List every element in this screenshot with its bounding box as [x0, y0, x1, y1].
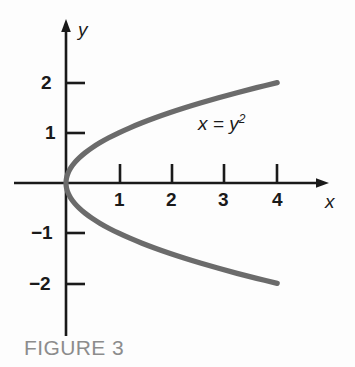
curve-equation-exponent: 2	[239, 112, 246, 126]
x-axis-label: x	[325, 192, 335, 211]
y-axis-arrowhead	[61, 19, 71, 32]
x-axis-arrowhead	[316, 178, 329, 188]
curve-equation-label: x = y2	[198, 114, 245, 133]
x-tick-label-1: 1	[114, 190, 125, 209]
x-tick-label-4: 4	[272, 190, 283, 209]
y-tick-label-neg2: −2	[29, 274, 51, 293]
figure-container: 2 1 −1 −2 1 2 3 4 y x x = y2 FIGURE 3	[0, 0, 355, 367]
figure-caption: FIGURE 3	[24, 337, 124, 358]
y-tick-label-1: 1	[45, 123, 56, 142]
curve-equation-base: x = y	[198, 113, 239, 134]
x-tick-label-2: 2	[166, 190, 177, 209]
x-tick-label-3: 3	[218, 190, 229, 209]
y-axis-label: y	[78, 20, 88, 39]
plot-canvas	[0, 0, 355, 367]
y-tick-label-neg1: −1	[31, 223, 53, 242]
y-tick-label-2: 2	[41, 73, 52, 92]
